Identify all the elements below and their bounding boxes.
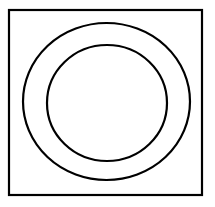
- ring-in-square-figure: [0, 0, 215, 207]
- diagram-canvas: [0, 0, 215, 207]
- inner-circle: [47, 45, 167, 161]
- square-frame: [9, 10, 202, 195]
